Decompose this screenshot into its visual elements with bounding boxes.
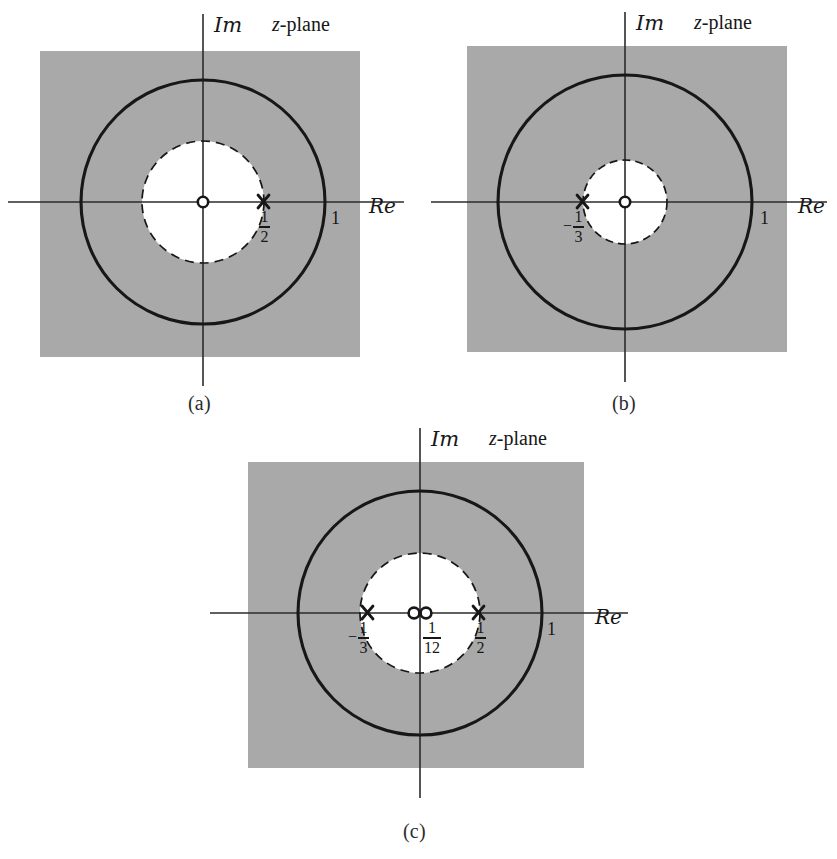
pole-label-c-0-denominator: 3	[359, 640, 369, 656]
z-plane-label-c: z-plane	[489, 427, 547, 450]
z-plane-label-a: z-plane	[272, 13, 330, 36]
real-axis-label-a: Re	[369, 194, 396, 218]
imaginary-axis-label-a: Im	[214, 13, 242, 37]
zero-label-c-1-numerator: 1	[427, 620, 437, 636]
pole-label-b-0: − 1 3	[563, 209, 584, 245]
z-variable-b: z	[694, 11, 702, 33]
zero-label-c-1-denominator: 12	[423, 640, 441, 656]
plane-suffix-a: -plane	[280, 13, 330, 35]
panel-caption-a: (a)	[188, 392, 211, 415]
im-symbol-c: Im	[431, 427, 459, 451]
pole-label-a-0-numerator: 1	[260, 209, 270, 225]
zero-marker-c-1	[421, 608, 432, 619]
panel-caption-b: (b)	[612, 392, 636, 415]
panel-b: Im z-plane Re 1 − 1 3 (b)	[420, 0, 837, 430]
zero-marker-b-0	[620, 197, 630, 207]
imaginary-axis-label-c: Im	[431, 427, 459, 451]
plane-suffix-c: -plane	[497, 427, 547, 449]
zero-marker-c-0	[409, 608, 420, 619]
unit-circle-label-b: 1	[760, 208, 769, 229]
imaginary-axis-label-b: Im	[636, 11, 664, 35]
im-symbol-b: Im	[636, 11, 664, 35]
re-symbol-b: Re	[798, 194, 825, 218]
pole-label-b-0-numerator: 1	[574, 209, 584, 225]
panel-c-canvas	[200, 420, 640, 859]
panel-a: Im z-plane Re 1 1 2 (a)	[0, 0, 420, 430]
pole-label-c-1-denominator: 2	[476, 640, 486, 656]
panel-a-canvas	[0, 0, 420, 430]
real-axis-label-b: Re	[798, 194, 825, 218]
panel-caption-c: (c)	[403, 820, 426, 843]
pole-label-a-0-denominator: 2	[260, 229, 270, 245]
zero-marker-a-0	[198, 197, 208, 207]
panel-c: Im z-plane Re 1 − 1 3 1 12 1	[200, 420, 640, 859]
real-axis-label-c: Re	[595, 605, 622, 629]
pole-label-c-0-numerator: 1	[359, 620, 369, 636]
re-symbol-c: Re	[595, 605, 622, 629]
pole-label-c-1: 1 2	[474, 620, 486, 656]
pole-label-a-0: 1 2	[258, 209, 270, 245]
panel-b-canvas	[420, 0, 837, 430]
pole-label-c-0: − 1 3	[348, 620, 369, 656]
zero-label-c-1: 1 12	[422, 620, 441, 656]
figure-root: Im z-plane Re 1 1 2 (a)	[0, 0, 837, 859]
z-plane-label-b: z-plane	[694, 11, 752, 34]
pole-label-c-1-numerator: 1	[476, 620, 486, 636]
re-symbol-a: Re	[369, 194, 396, 218]
im-symbol-a: Im	[214, 13, 242, 37]
z-variable-a: z	[272, 13, 280, 35]
pole-label-b-0-sign: −	[563, 218, 572, 234]
pole-label-b-0-denominator: 3	[574, 229, 584, 245]
pole-label-c-0-sign: −	[348, 629, 357, 645]
unit-circle-label-c: 1	[547, 619, 556, 640]
z-variable-c: z	[489, 427, 497, 449]
unit-circle-label-a: 1	[331, 208, 340, 229]
plane-suffix-b: -plane	[702, 11, 752, 33]
